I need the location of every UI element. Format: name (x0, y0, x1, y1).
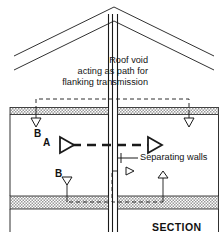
roof-void-line-2: acting as path for (78, 66, 148, 76)
arrowhead-b-upper-left (31, 118, 41, 127)
path-b-lower-label: B (55, 168, 62, 180)
lower-floor-slab-right (118, 196, 219, 209)
lower-floor-slab-left (10, 196, 109, 209)
arrowhead-b-lower-inner (126, 167, 134, 175)
path-a-label: A (43, 137, 50, 149)
roof-void-line-3: flanking transmission (62, 77, 148, 87)
separating-wall-group (109, 14, 118, 232)
upper-floor-slab-left (10, 108, 109, 115)
section-title: SECTION (152, 221, 201, 233)
room-outline-group (10, 115, 219, 233)
arrowhead-b-lower-left-down (62, 177, 72, 185)
section-drawing: Roof voidacting as path forflanking tran… (0, 0, 221, 241)
path-b-upper-label: B (34, 128, 41, 140)
roof-void-line-1: Roof void (109, 55, 148, 65)
upper-floor-group (10, 108, 219, 115)
arrowhead-b-lower-right-up (158, 171, 168, 178)
upper-floor-slab-right (118, 108, 219, 115)
arrowhead-a-right (148, 137, 162, 153)
arrowhead-b-upper-right (184, 118, 194, 127)
roof-outer-line (14, 7, 214, 56)
separating-walls-label: Separating walls (140, 152, 207, 163)
separating-walls-leader (118, 153, 138, 163)
roof-void-annotation: Roof voidacting as path forflanking tran… (0, 55, 148, 88)
section-drawing-canvas (0, 0, 221, 241)
arrowhead-a-left (60, 137, 74, 153)
direct-path-a (60, 137, 162, 153)
lower-floor-group (10, 196, 219, 209)
